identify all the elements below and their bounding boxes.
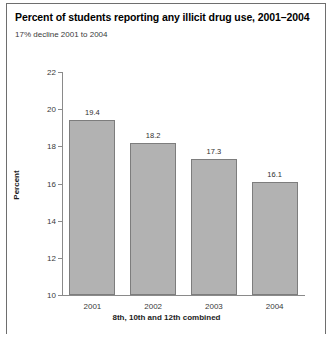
bar bbox=[191, 159, 237, 295]
y-tick-label: 16 bbox=[47, 179, 56, 188]
y-tick-mark bbox=[58, 258, 62, 259]
y-tick-mark bbox=[58, 184, 62, 185]
bar bbox=[69, 120, 115, 295]
y-tick-mark bbox=[58, 295, 62, 296]
chart-figure: Percent of students reporting any illici… bbox=[0, 0, 333, 337]
frame-top-rule bbox=[6, 3, 326, 4]
bar bbox=[252, 182, 298, 295]
x-axis-caption: 8th, 10th and 12th combined bbox=[0, 313, 333, 322]
y-tick-label: 12 bbox=[47, 253, 56, 262]
x-tick-label: 2004 bbox=[266, 302, 284, 311]
x-tick-label: 2002 bbox=[144, 302, 162, 311]
x-tick-label: 2001 bbox=[83, 302, 101, 311]
y-tick-mark bbox=[58, 221, 62, 222]
x-axis-line bbox=[62, 295, 305, 296]
bar bbox=[130, 143, 176, 295]
y-tick-label: 20 bbox=[47, 105, 56, 114]
y-tick-mark bbox=[58, 109, 62, 110]
y-tick-label: 10 bbox=[47, 291, 56, 300]
bar-value-label: 18.2 bbox=[146, 131, 161, 140]
y-tick-mark bbox=[58, 72, 62, 73]
bar-value-label: 19.4 bbox=[85, 108, 100, 117]
bar-value-label: 16.1 bbox=[267, 170, 282, 179]
y-axis-line bbox=[62, 72, 63, 295]
y-tick-label: 22 bbox=[47, 68, 56, 77]
chart-subtitle: 17% decline 2001 to 2004 bbox=[15, 30, 108, 39]
frame-right-rule bbox=[325, 3, 326, 334]
plot-area: 22201816141210 19.418.217.316.1 20012002… bbox=[62, 72, 305, 295]
frame-left-rule bbox=[6, 3, 7, 334]
y-axis-label: Percent bbox=[12, 170, 21, 199]
y-tick-label: 18 bbox=[47, 142, 56, 151]
y-tick-label: 14 bbox=[47, 216, 56, 225]
y-tick-mark bbox=[58, 146, 62, 147]
bar-value-label: 17.3 bbox=[207, 147, 222, 156]
chart-title: Percent of students reporting any illici… bbox=[15, 11, 309, 23]
x-tick-label: 2003 bbox=[205, 302, 223, 311]
